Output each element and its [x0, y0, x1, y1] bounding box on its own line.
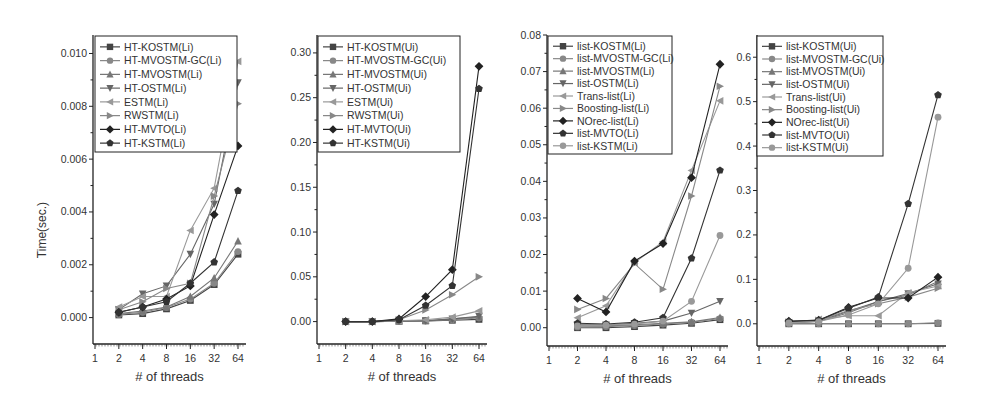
legend-label: HT-MVOSTM(Ui): [347, 68, 427, 80]
circle-marker-icon: [769, 144, 775, 150]
y-tick-label: 0.002: [61, 258, 87, 270]
diamond-marker-icon: [934, 273, 943, 282]
legend-label: HT-MVOSTM(Li): [124, 68, 202, 80]
y-tick-label: 0.00: [291, 315, 312, 327]
series-line: [114, 142, 242, 317]
chart-panel-3: 0.000.010.020.030.040.050.060.070.081248…: [521, 29, 728, 387]
legend-label: RWSTM(Li): [124, 109, 179, 121]
circle-marker-icon: [603, 322, 610, 329]
circle-marker-icon: [815, 318, 822, 325]
legend-label: NOrec-list(Ui): [786, 116, 850, 128]
series-line: [785, 280, 942, 326]
chart-panel-1: 0.0000.0020.0040.0060.0080.0101248163264…: [61, 35, 246, 384]
legend-label: HT-KOSTM(Ui): [347, 41, 418, 53]
y-tick-label: 0.010: [61, 47, 87, 59]
y-tick-label: 0.3: [736, 184, 751, 196]
diamond-marker-icon: [573, 294, 582, 303]
x-tick-label: 16: [420, 352, 432, 364]
triangle-right-marker-icon: [476, 273, 483, 281]
x-tick-label: 1: [756, 354, 762, 366]
legend-label: HT-KSTM(Li): [124, 137, 185, 149]
legend-label: list-KSTM(Ui): [786, 141, 848, 153]
legend-label: HT-OSTM(Li): [124, 82, 186, 94]
x-tick-label: 8: [846, 354, 852, 366]
y-tick-label: 0.00: [521, 321, 542, 333]
x-tick-label: 8: [396, 352, 402, 364]
circle-marker-icon: [935, 319, 942, 326]
legend-label: Trans-list(Li): [577, 90, 635, 102]
x-tick-label: 32: [446, 352, 458, 364]
square-marker-icon: [107, 44, 113, 50]
legend: HT-KOSTM(Li)HT-MVOSTM-GC(Li)HT-MVOSTM(Li…: [95, 36, 237, 152]
triangle-right-marker-icon: [574, 306, 581, 314]
circle-marker-icon: [875, 300, 882, 307]
circle-marker-icon: [660, 318, 667, 325]
legend-label: HT-MVTO(Ui): [347, 123, 411, 135]
circle-marker-icon: [330, 57, 336, 63]
y-tick-label: 0.10: [291, 226, 312, 238]
y-tick-label: 0.08: [521, 29, 542, 41]
x-tick-label: 32: [902, 354, 914, 366]
legend-label: list-MVTO(Li): [577, 127, 639, 139]
x-tick-label: 2: [116, 352, 122, 364]
y-tick-label: 0.5: [736, 95, 751, 107]
legend: list-KOSTM(Li)list-MVOSTM-GC(Li)list-MVO…: [548, 36, 674, 154]
triangle-left-marker-icon: [874, 312, 881, 320]
y-tick-label: 0.006: [61, 153, 87, 165]
y-tick-label: 0.6: [736, 51, 751, 63]
circle-marker-icon: [235, 248, 242, 255]
pentagon-marker-icon: [210, 258, 218, 265]
triangle-right-marker-icon: [449, 291, 456, 299]
series-line: [784, 273, 942, 326]
x-tick-label: 4: [816, 354, 822, 366]
legend-label: HT-MVTO(Li): [124, 123, 186, 135]
circle-marker-icon: [905, 320, 912, 327]
x-axis-title: # of threads: [603, 371, 672, 386]
x-axis-title: # of threads: [368, 369, 437, 384]
series-line: [115, 251, 241, 319]
diamond-marker-icon: [716, 60, 725, 69]
circle-marker-icon: [785, 319, 792, 326]
figure-canvas: Time(sec.) 0.0000.0020.0040.0060.0080.01…: [0, 0, 981, 416]
x-tick-label: 64: [714, 354, 726, 366]
x-tick-label: 1: [316, 352, 322, 364]
x-tick-label: 1: [92, 352, 98, 364]
legend-label: Trans-list(Ui): [786, 91, 846, 103]
pentagon-marker-icon: [875, 293, 883, 300]
circle-marker-icon: [845, 320, 852, 327]
legend-label: list-MVOSTM(Ui): [786, 65, 865, 77]
y-tick-label: 0.06: [521, 102, 542, 114]
legend: HT-KOSTM(Ui)HT-MVOSTM-GC(Ui)HT-MVOSTM(Ui…: [318, 36, 460, 152]
y-tick-label: 0.000: [61, 311, 87, 323]
square-marker-icon: [330, 44, 336, 50]
y-tick-label: 0.15: [291, 181, 312, 193]
legend-label: HT-KSTM(Ui): [347, 137, 410, 149]
x-tick-label: 64: [932, 354, 944, 366]
x-tick-label: 16: [872, 354, 884, 366]
y-tick-label: 0.30: [291, 46, 312, 58]
y-tick-label: 0.05: [291, 270, 312, 282]
circle-marker-icon: [875, 320, 882, 327]
circle-marker-icon: [107, 57, 113, 63]
legend-label: RWSTM(Ui): [347, 109, 403, 121]
diamond-marker-icon: [687, 173, 696, 182]
legend-label: Boosting-list(Ui): [786, 103, 860, 115]
series-line: [785, 282, 942, 326]
x-tick-label: 32: [208, 352, 220, 364]
legend-label: list-KOSTM(Li): [577, 40, 646, 52]
x-tick-label: 64: [473, 352, 485, 364]
legend-label: list-MVOSTM(Li): [577, 65, 655, 77]
y-tick-label: 0.1: [736, 273, 751, 285]
circle-marker-icon: [717, 232, 724, 239]
legend-label: HT-OSTM(Ui): [347, 82, 411, 94]
circle-marker-icon: [574, 322, 581, 329]
legend-label: Boosting-list(Li): [577, 102, 649, 114]
y-tick-label: 0.01: [521, 285, 542, 297]
circle-marker-icon: [560, 55, 566, 61]
legend: list-KOSTM(Ui)list-MVOSTM-GC(Ui)list-MVO…: [757, 36, 885, 156]
legend-label: list-KSTM(Li): [577, 140, 638, 152]
x-tick-label: 1: [546, 354, 552, 366]
chart-panel-2: 0.000.050.100.150.200.250.301248163264# …: [291, 35, 487, 384]
y-tick-label: 0.0: [736, 317, 751, 329]
legend-label: ESTM(Ui): [347, 96, 393, 108]
